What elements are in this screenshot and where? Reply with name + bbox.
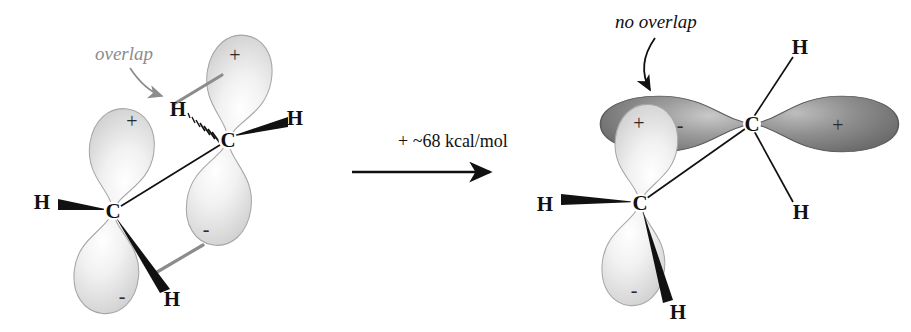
sign-bottom-lower: - xyxy=(119,285,126,307)
h-label-lower-right: H xyxy=(793,200,809,224)
sign-right-front: + xyxy=(832,114,843,136)
sign-right-back: - xyxy=(677,114,684,136)
h-label-bottom-left: H xyxy=(34,190,50,214)
h-label-top-right: H xyxy=(287,106,303,130)
atom-label-c-left: C xyxy=(632,191,647,215)
h-label-upper-right: H xyxy=(792,35,808,59)
atom-label-c-bottom: C xyxy=(105,199,120,223)
h-label-bottom-right: H xyxy=(164,287,180,311)
atom-label-c-right: C xyxy=(744,112,759,136)
h-label-top-left: H xyxy=(170,97,186,121)
no-overlap-annotation-text: no overlap xyxy=(615,11,697,32)
sign-top-upper: + xyxy=(229,44,240,66)
atom-label-c-top: C xyxy=(220,128,235,152)
overlap-annotation-text: overlap xyxy=(95,43,153,64)
sign-bottom-upper: + xyxy=(126,110,137,132)
sign-top-lower: - xyxy=(203,218,210,240)
h-label-left: H xyxy=(537,192,553,216)
reaction-diagram: C C H H H H + - + - overlap + ~68 kcal/m… xyxy=(0,0,911,332)
sign-left-lower: - xyxy=(631,279,638,301)
h-label-bottom: H xyxy=(670,300,686,324)
sign-left-upper: + xyxy=(633,112,644,134)
energy-label: + ~68 kcal/mol xyxy=(398,131,508,151)
